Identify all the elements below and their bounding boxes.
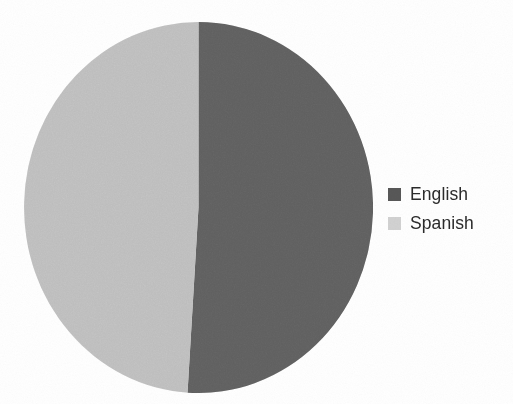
pie-svg bbox=[24, 22, 373, 393]
legend-swatch-spanish bbox=[388, 217, 401, 230]
legend-label-english: English bbox=[410, 186, 468, 204]
pie-chart-graphic bbox=[24, 22, 373, 393]
legend-swatch-english bbox=[388, 188, 401, 201]
legend-item-spanish[interactable]: Spanish bbox=[388, 209, 508, 238]
legend: English Spanish bbox=[388, 180, 508, 238]
pie-chart-figure: English Spanish bbox=[0, 0, 513, 404]
legend-item-english[interactable]: English bbox=[388, 180, 508, 209]
legend-label-spanish: Spanish bbox=[410, 215, 474, 233]
pie-grain bbox=[24, 22, 373, 393]
